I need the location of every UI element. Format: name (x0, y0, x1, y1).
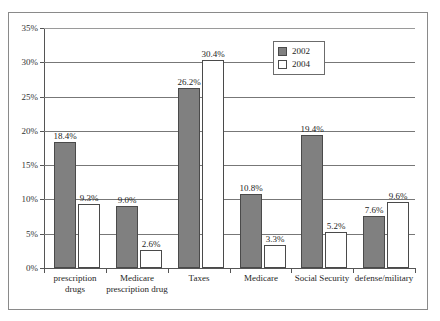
bar-2004[interactable]: 30.4% (202, 60, 224, 268)
bar-2002[interactable]: 18.4% (54, 142, 76, 268)
bar-value-label: 7.6% (365, 206, 384, 215)
y-axis-tick-label: 25% (22, 92, 39, 101)
bar-2004[interactable]: 9.6% (387, 202, 409, 268)
y-axis-tick-label: 5% (26, 229, 38, 238)
y-axis-tick-label: 20% (22, 126, 39, 135)
bar-2002[interactable]: 9.0% (116, 206, 138, 268)
x-axis-tick-mark (415, 268, 416, 273)
plot-area: 0%5%10%15%20%25%30%35% 18.4%9.3%9.0%2.6%… (44, 28, 415, 269)
bar-group: 18.4%9.3% (44, 28, 106, 268)
y-axis-tick-label: 30% (22, 58, 39, 67)
bar-2004[interactable]: 5.2% (325, 232, 347, 268)
bar-value-label: 5.2% (327, 222, 346, 231)
legend-label-2002: 2002 (292, 47, 310, 56)
x-axis-category-label: Medicare (230, 273, 292, 284)
legend-swatch-icon-2004 (278, 60, 287, 69)
bar-value-label: 9.3% (80, 194, 99, 203)
legend-swatch-icon-2002 (278, 47, 287, 56)
x-axis-category-label: prescription drugs (44, 273, 106, 295)
bar-2002[interactable]: 7.6% (363, 216, 385, 268)
chart-legend: 2002 2004 (273, 41, 325, 75)
chart-frame: 0%5%10%15%20%25%30%35% 18.4%9.3%9.0%2.6%… (8, 12, 428, 310)
x-axis-category-label: Social Security (291, 273, 353, 284)
x-axis-category-label: Taxes (168, 273, 230, 284)
bar-2004[interactable]: 3.3% (264, 245, 286, 268)
bar-2002[interactable]: 10.8% (240, 194, 262, 268)
bar-value-label: 10.8% (239, 184, 262, 193)
bar-value-label: 2.6% (142, 240, 161, 249)
y-axis-tick-label: 10% (22, 195, 39, 204)
bar-value-label: 18.4% (53, 132, 76, 141)
bar-group: 9.0%2.6% (106, 28, 168, 268)
legend-entry-2002: 2002 (278, 45, 320, 58)
y-axis-tick-label: 0% (26, 264, 38, 273)
bar-group: 7.6%9.6% (353, 28, 415, 268)
x-axis-category-label: Medicare prescription drug (106, 273, 168, 295)
y-axis-tick-label: 15% (22, 161, 39, 170)
x-axis-category-label: defense/military (353, 273, 415, 284)
bar-value-label: 9.0% (118, 196, 137, 205)
bar-2002[interactable]: 19.4% (301, 135, 323, 268)
bar-value-label: 9.6% (389, 192, 408, 201)
bar-value-label: 3.3% (266, 235, 285, 244)
legend-entry-2004: 2004 (278, 58, 320, 71)
bar-2004[interactable]: 2.6% (140, 250, 162, 268)
bar-value-label: 26.2% (177, 78, 200, 87)
bar-2004[interactable]: 9.3% (78, 204, 100, 268)
legend-label-2004: 2004 (292, 60, 310, 69)
bar-group: 26.2%30.4% (168, 28, 230, 268)
bar-value-label: 19.4% (300, 125, 323, 134)
y-axis-tick-label: 35% (22, 24, 39, 33)
bar-value-label: 30.4% (201, 50, 224, 59)
bar-2002[interactable]: 26.2% (178, 88, 200, 268)
